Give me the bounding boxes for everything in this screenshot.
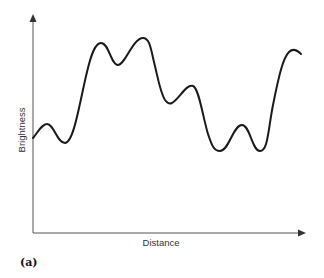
y-axis-label: Brightness bbox=[16, 107, 27, 152]
x-axis bbox=[33, 230, 306, 237]
brightness-distance-figure: Brightness Distance (a) bbox=[0, 0, 324, 278]
panel-label: (a) bbox=[20, 256, 38, 269]
x-axis-arrow-icon bbox=[298, 230, 306, 237]
y-axis-arrow-icon bbox=[30, 14, 37, 22]
brightness-curve bbox=[33, 38, 301, 151]
y-axis bbox=[30, 14, 37, 233]
x-axis-label: Distance bbox=[143, 237, 180, 248]
